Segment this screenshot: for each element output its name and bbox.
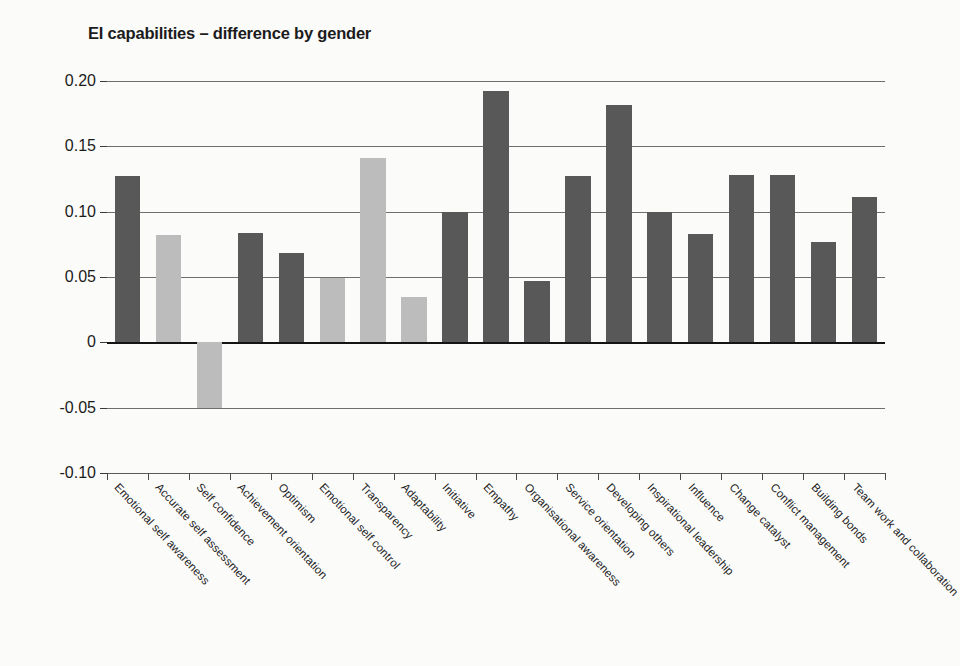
y-axis-tick-label: -0.05: [60, 398, 96, 416]
chart-title: EI capabilities – difference by gender: [88, 24, 371, 43]
x-axis-tick-mark: [639, 473, 640, 480]
bar: [688, 234, 713, 342]
bar: [401, 297, 426, 343]
gridline-0neg20: 0.20: [107, 81, 885, 82]
bar: [852, 197, 877, 342]
x-axis-category-label: Developing others: [604, 481, 677, 558]
bar: [770, 175, 795, 342]
bar: [811, 242, 836, 343]
bar: [729, 175, 754, 342]
x-axis-tick-mark: [557, 473, 558, 480]
x-axis-tick-mark: [844, 473, 845, 480]
bar: [524, 281, 549, 342]
x-axis-tick-mark: [803, 473, 804, 480]
bar: [115, 176, 140, 342]
x-axis-tick-mark: [271, 473, 272, 480]
y-axis-tick-label: -0.10: [60, 464, 96, 482]
y-axis-tick-mark: [100, 212, 107, 213]
gridline-neg0-05: -0.05: [107, 408, 885, 409]
y-axis-tick-mark: [100, 146, 107, 147]
gridline-neg0-10: -0.10: [107, 473, 885, 474]
bar: [156, 235, 181, 342]
x-axis-tick-mark: [516, 473, 517, 480]
bar: [360, 158, 385, 342]
bar: [565, 176, 590, 342]
bar: [197, 342, 222, 407]
x-axis-category-label: Empathy: [481, 481, 521, 523]
x-axis-labels: Emotional self awarenessAccurate self as…: [107, 481, 885, 666]
bar: [647, 212, 672, 343]
bar: [320, 278, 345, 342]
x-axis-category-label: Initiative: [440, 481, 478, 521]
plot-area: 0.200.150.100.050-0.05-0.10: [107, 81, 885, 473]
y-axis-tick-label: 0.10: [65, 202, 96, 220]
y-axis-tick-mark: [100, 81, 107, 82]
y-axis-tick-mark: [100, 277, 107, 278]
x-axis-tick-mark: [598, 473, 599, 480]
y-axis-tick-label: 0: [87, 333, 96, 351]
y-axis-tick-label: 0.20: [65, 72, 96, 90]
x-axis-tick-mark: [353, 473, 354, 480]
x-axis-tick-mark: [762, 473, 763, 480]
x-axis-tick-mark: [476, 473, 477, 480]
x-axis-category-label: Influence: [686, 481, 727, 524]
x-axis-category-label: Conflict management: [768, 481, 852, 570]
x-axis-tick-mark: [189, 473, 190, 480]
y-axis-tick-mark: [100, 408, 107, 409]
x-axis-tick-mark: [435, 473, 436, 480]
bar: [279, 253, 304, 342]
y-axis-tick-label: 0.05: [65, 268, 96, 286]
x-axis-tick-mark: [394, 473, 395, 480]
x-axis-tick-mark: [230, 473, 231, 480]
y-axis-tick-mark: [100, 473, 107, 474]
x-axis-tick-mark: [148, 473, 149, 480]
bar: [238, 233, 263, 343]
bar: [442, 212, 467, 343]
y-axis-tick-label: 0.15: [65, 137, 96, 155]
x-axis-tick-mark: [885, 473, 886, 480]
x-axis-category-label: Emotional self control: [317, 481, 402, 571]
gridline-0: 0: [107, 342, 885, 344]
x-axis-tick-mark: [312, 473, 313, 480]
x-axis-tick-mark: [107, 473, 108, 480]
x-axis-tick-mark: [680, 473, 681, 480]
bar: [483, 91, 508, 342]
x-axis-category-label: Service orientation: [563, 481, 638, 560]
y-axis-tick-mark: [100, 342, 107, 343]
x-axis-category-label: Optimism: [276, 481, 318, 525]
bar: [606, 105, 631, 343]
x-axis-tick-mark: [721, 473, 722, 480]
